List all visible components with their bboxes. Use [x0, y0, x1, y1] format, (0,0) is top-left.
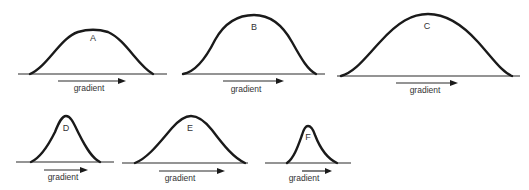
- panel-c: C gradient: [337, 14, 520, 95]
- curve-label: B: [251, 22, 257, 32]
- arrow-head-icon: [276, 78, 284, 84]
- panel-b: B gradient: [182, 15, 325, 94]
- gradient-label: gradient: [165, 173, 196, 183]
- response-curves-diagram: A gradient B gradient C gradient D gradi…: [0, 0, 529, 190]
- arrow-head-icon: [118, 78, 126, 84]
- panel-d: D gradient: [16, 116, 114, 182]
- arrow-head-icon: [217, 168, 225, 174]
- panel-f: F gradient: [265, 126, 351, 183]
- arrow-head-icon: [325, 168, 332, 174]
- panel-e: E gradient: [122, 116, 248, 183]
- curve-label: C: [424, 21, 431, 31]
- gradient-label: gradient: [231, 84, 262, 94]
- curve-label: A: [90, 33, 96, 43]
- panel-a: A gradient: [18, 30, 167, 93]
- response-curve: [287, 126, 337, 163]
- gradient-label: gradient: [74, 83, 105, 93]
- curve-label: E: [187, 123, 193, 133]
- gradient-label: gradient: [48, 172, 79, 182]
- curve-label: D: [63, 123, 70, 133]
- gradient-label: gradient: [289, 173, 320, 183]
- arrow-head-icon: [450, 80, 458, 86]
- gradient-label: gradient: [410, 85, 441, 95]
- response-curve: [183, 15, 316, 74]
- curve-label: F: [305, 132, 311, 142]
- arrow-head-icon: [80, 167, 88, 173]
